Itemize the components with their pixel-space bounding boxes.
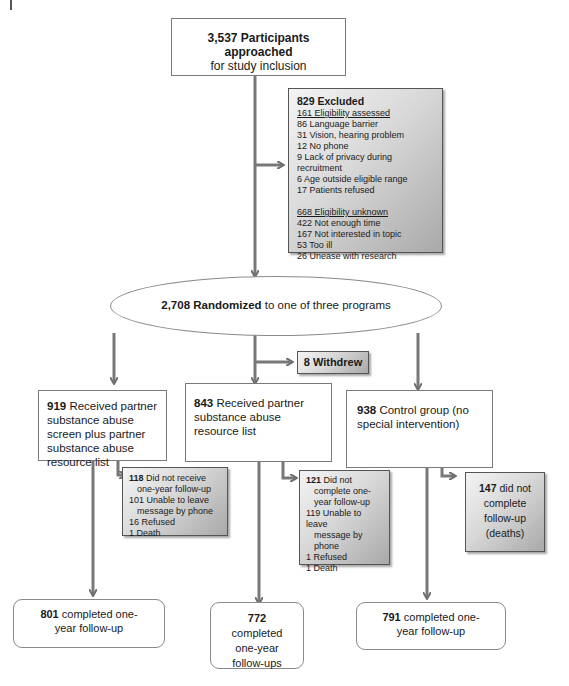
loss-line: Did not receive <box>146 473 206 483</box>
arm-count: 938 <box>357 404 376 416</box>
loss-box-arm2: 121 Did not complete one- year follow-up… <box>299 470 390 565</box>
loss-line: complete <box>466 496 544 511</box>
completed-box-arm3: 791 completed one-year follow-up <box>356 602 506 650</box>
randomized-count: 2,708 <box>161 299 190 311</box>
loss-box-arm3: 147 did not complete follow-up (deaths) <box>465 472 545 552</box>
arm-resource-list-box: 843 Received partner substance abuse res… <box>185 383 332 462</box>
approached-count: 3,537 <box>207 31 237 45</box>
loss-line: year follow-up <box>306 497 383 508</box>
withdrew-box: 8 Withdrew <box>297 351 369 374</box>
assessed-reason: 6 Age outside eligible range <box>297 174 434 185</box>
loss-line: follow-up <box>466 511 544 526</box>
loss-line: complete one- <box>306 486 383 497</box>
loss-line: message by <box>306 530 383 541</box>
completed-count: 801 <box>40 608 58 620</box>
loss-line: 16 Refused <box>129 517 221 528</box>
loss-line: 1 Refused <box>306 552 383 563</box>
participants-approached-box: 3,537 Participants approached for study … <box>171 18 346 76</box>
completed-count: 772 <box>248 612 266 624</box>
loss-line: Did not <box>324 475 353 485</box>
completed-text: completed one-year follow-up <box>55 608 138 634</box>
completed-count: 791 <box>382 611 400 623</box>
assessed-reason: 12 No phone <box>297 141 434 152</box>
loss-line: one-year follow-up <box>129 484 221 495</box>
randomized-ellipse: 2,708 Randomized to one of three program… <box>110 276 442 336</box>
loss-count: 121 <box>306 475 321 485</box>
randomized-subtext: to one of three programs <box>265 299 391 311</box>
loss-count: 147 <box>479 482 497 494</box>
loss-line: 1 Death <box>306 563 383 574</box>
loss-line: phone <box>306 541 383 552</box>
assessed-reason: 9 Lack of privacy during recruitment <box>297 152 434 174</box>
connector-lines <box>0 0 569 686</box>
approached-label: Participants approached <box>224 31 309 59</box>
unknown-reason: 167 Not interested in topic <box>297 229 434 240</box>
loss-box-arm1: 118 Did not receive one-year follow-up 1… <box>122 467 228 536</box>
randomized-label: Randomized <box>193 299 261 311</box>
loss-line: 101 Unable to leave <box>129 495 221 506</box>
eligibility-assessed-header: 161 Eligibility assessed <box>297 108 434 119</box>
unknown-reason: 53 Too ill <box>297 240 434 251</box>
loss-line: message by phone <box>129 506 221 517</box>
approached-subtext: for study inclusion <box>210 59 306 73</box>
arm-control-box: 938 Control group (no special interventi… <box>346 390 493 468</box>
assessed-reason: 86 Language barrier <box>297 119 434 130</box>
loss-line: 119 Unable to leave <box>306 508 383 530</box>
assessed-reason: 17 Patients refused <box>297 185 434 196</box>
assessed-reason: 31 Vision, hearing problem <box>297 130 434 141</box>
completed-text: completed one-year follow-ups <box>232 627 283 669</box>
withdrew-label: 8 Withdrew <box>304 356 363 368</box>
completed-text: completed one-year follow-up <box>397 611 480 637</box>
unknown-reason: 422 Not enough time <box>297 218 434 229</box>
excluded-title: 829 Excluded <box>297 95 434 108</box>
loss-line: 1 Death <box>129 528 221 539</box>
loss-line: did not <box>499 482 531 494</box>
loss-line: (deaths) <box>466 526 544 541</box>
arm-screen-plus-list-box: 919 Received partner substance abuse scr… <box>38 390 167 461</box>
excluded-box: 829 Excluded 161 Eligibility assessed 86… <box>288 88 443 253</box>
unknown-reason: 26 Unease with research <box>297 251 434 262</box>
completed-box-arm1: 801 completed one-year follow-up <box>13 599 165 648</box>
loss-count: 118 <box>129 473 144 483</box>
arm-count: 919 <box>47 400 66 412</box>
completed-box-arm2: 772 completed one-year follow-ups <box>210 602 304 669</box>
arm-count: 843 <box>194 397 213 409</box>
eligibility-unknown-header: 668 Eligibility unknown <box>297 207 434 218</box>
